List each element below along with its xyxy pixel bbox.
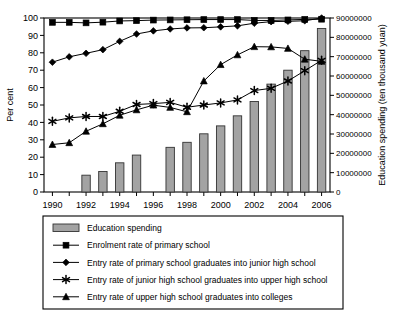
- chart-svg: 0102030405060708090100Per cent0100000002…: [0, 0, 395, 215]
- legend-item-label: Entry rate of upper high school graduate…: [87, 292, 293, 302]
- x-axis-tick-label: 2004: [278, 200, 298, 210]
- y-axis-right-title: Education spending (ten thousand yuan): [377, 24, 387, 186]
- legend-svg: Education spendingEnrolment rate of prim…: [0, 212, 395, 312]
- x-axis: 199019921994199619982000200220042006: [42, 192, 331, 210]
- bar: [116, 163, 124, 192]
- y-axis-left-tick-label: 10: [28, 170, 38, 180]
- legend-item[interactable]: Entry rate of primary school graduates i…: [53, 258, 316, 268]
- bar: [216, 126, 224, 192]
- bar: [284, 70, 292, 192]
- y-axis-right-tick-label: 60000000: [336, 72, 372, 81]
- marker-square: [83, 20, 89, 26]
- y-axis-left-tick-label: 70: [28, 65, 38, 75]
- x-axis-tick-label: 1994: [110, 200, 130, 210]
- y-axis-left: 0102030405060708090100: [23, 13, 44, 197]
- legend-swatch-bar: [53, 224, 79, 232]
- bar: [267, 84, 275, 192]
- y-axis-left-tick-label: 30: [28, 135, 38, 145]
- bar: [250, 102, 258, 192]
- figure: 0102030405060708090100Per cent0100000002…: [0, 0, 395, 312]
- bar: [166, 147, 174, 192]
- x-axis-tick-label: 1996: [143, 200, 163, 210]
- y-axis-left-title: Per cent: [5, 88, 15, 122]
- legend-item-label: Entry rate of junior high school graduat…: [87, 275, 328, 285]
- x-axis-tick-label: 1990: [42, 200, 62, 210]
- x-axis-tick-label: 1998: [177, 200, 197, 210]
- legend-item-label: Entry rate of primary school graduates i…: [87, 258, 316, 268]
- y-axis-left-tick-label: 50: [28, 100, 38, 110]
- y-axis-left-tick-label: 100: [23, 13, 38, 23]
- x-axis-tick-label: 2006: [312, 200, 332, 210]
- bar: [233, 116, 241, 192]
- marker-square: [218, 17, 224, 23]
- marker-square: [50, 19, 56, 25]
- y-axis-right-tick-label: 70000000: [336, 53, 372, 62]
- y-axis-left-tick-label: 60: [28, 83, 38, 93]
- marker-square: [100, 19, 106, 25]
- marker-square: [150, 17, 156, 23]
- y-axis-right-tick-label: 20000000: [336, 149, 372, 158]
- y-axis-right-tick-label: 90000000: [336, 14, 372, 23]
- bar: [183, 142, 191, 192]
- marker-square: [63, 242, 69, 248]
- y-axis-right-tick-label: 50000000: [336, 91, 372, 100]
- y-axis-left-tick-label: 40: [28, 118, 38, 128]
- y-axis-right-tick-label: 30000000: [336, 130, 372, 139]
- marker-square: [66, 19, 72, 25]
- x-axis-tick-label: 1992: [76, 200, 96, 210]
- legend-item[interactable]: Entry rate of junior high school graduat…: [53, 275, 328, 285]
- legend-item[interactable]: Education spending: [53, 223, 162, 233]
- y-axis-right-tick-label: 0: [336, 188, 341, 197]
- marker-square: [201, 17, 207, 23]
- y-axis-right: 0100000002000000030000000400000005000000…: [330, 14, 372, 197]
- marker-square: [235, 17, 241, 23]
- marker-square: [184, 17, 190, 23]
- marker-square: [167, 17, 173, 23]
- bar: [82, 175, 90, 192]
- bar: [200, 134, 208, 192]
- x-axis-tick-label: 2002: [244, 200, 264, 210]
- y-axis-left-tick-label: 0: [33, 187, 38, 197]
- y-axis-left-tick-label: 20: [28, 152, 38, 162]
- y-axis-left-tick-label: 80: [28, 48, 38, 58]
- y-axis-left-tick-label: 90: [28, 31, 38, 41]
- y-axis-right-tick-label: 40000000: [336, 111, 372, 120]
- y-axis-right-tick-label: 80000000: [336, 33, 372, 42]
- bar: [99, 172, 107, 192]
- bar: [132, 155, 140, 192]
- legend-item-label: Enrolment rate of primary school: [87, 240, 210, 250]
- y-axis-right-tick-label: 10000000: [336, 169, 372, 178]
- chart-plot-area: 0102030405060708090100Per cent0100000002…: [0, 0, 395, 215]
- bar: [317, 28, 325, 192]
- chart-legend: Education spendingEnrolment rate of prim…: [0, 212, 395, 312]
- x-axis-tick-label: 2000: [211, 200, 231, 210]
- marker-square: [134, 18, 140, 24]
- legend-item-label: Education spending: [87, 223, 162, 233]
- marker-square: [117, 18, 123, 24]
- legend-item[interactable]: Entry rate of upper high school graduate…: [53, 292, 293, 302]
